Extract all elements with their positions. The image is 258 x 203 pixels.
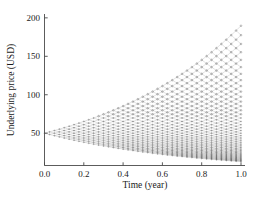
x-tick-label: 0.2 <box>78 169 89 179</box>
binomial-lattice-chart: 50100150200 0.00.20.40.60.81.0 Time (yea… <box>0 0 258 203</box>
lattice-tree <box>44 25 242 162</box>
x-tick-label: 0.8 <box>196 169 208 179</box>
lattice-edges <box>45 26 242 162</box>
x-tick-label: 1.0 <box>235 169 247 179</box>
chart-axes: 50100150200 0.00.20.40.60.81.0 <box>27 13 248 178</box>
y-tick-label: 100 <box>27 90 41 100</box>
y-axis-title: Underlying price (USD) <box>6 44 17 136</box>
lattice-nodes <box>44 25 242 162</box>
chart-figure: 50100150200 0.00.20.40.60.81.0 Time (yea… <box>0 0 258 203</box>
x-axis-ticks: 0.00.20.40.60.81.0 <box>39 162 247 178</box>
x-axis-title: Time (year) <box>123 180 168 191</box>
y-tick-label: 200 <box>27 13 41 23</box>
x-tick-label: 0.6 <box>157 169 169 179</box>
x-tick-label: 0.4 <box>117 169 129 179</box>
x-tick-label: 0.0 <box>39 169 51 179</box>
y-tick-label: 150 <box>27 51 41 61</box>
y-tick-label: 50 <box>31 128 41 138</box>
